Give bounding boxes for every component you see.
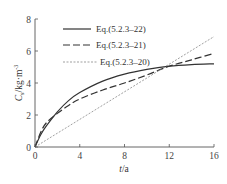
series-line-solid xyxy=(35,64,214,147)
x-tick-label: 16 xyxy=(209,151,219,161)
legend-label: Eq.(5.2.3–20) xyxy=(100,57,150,67)
x-tick-label: 8 xyxy=(122,151,127,161)
plot-area xyxy=(35,37,214,147)
y-tick-label: 6 xyxy=(26,47,31,57)
y-tick-label: 2 xyxy=(26,111,31,121)
y-tick-label: 4 xyxy=(26,79,31,89)
y-axis-label: Cs/kg·m-3 xyxy=(13,65,25,102)
line-chart: 048121602468 Eq.(5.2.3–22)Eq.(5.2.3–21)E… xyxy=(0,0,227,184)
legend: Eq.(5.2.3–22)Eq.(5.2.3–21)Eq.(5.2.3–20) xyxy=(63,24,150,67)
series-line-dotted xyxy=(35,37,214,147)
legend-label: Eq.(5.2.3–22) xyxy=(96,24,146,34)
legend-label: Eq.(5.2.3–21) xyxy=(96,40,146,50)
x-tick-label: 0 xyxy=(33,151,38,161)
x-tick-label: 12 xyxy=(165,151,175,161)
x-axis-label: t/a xyxy=(119,164,129,174)
y-tick-label: 8 xyxy=(26,15,31,25)
y-tick-label: 0 xyxy=(26,143,31,153)
x-tick-label: 4 xyxy=(77,151,82,161)
axes: 048121602468 xyxy=(26,15,219,162)
series-line-dashed xyxy=(35,53,214,147)
